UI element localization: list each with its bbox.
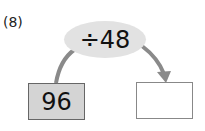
arc-right-icon xyxy=(142,46,164,74)
arc-left-icon xyxy=(56,50,74,83)
operation-oval: ÷48 xyxy=(64,21,146,58)
arrow-head-icon xyxy=(157,71,171,83)
flow-arrows xyxy=(0,0,205,131)
